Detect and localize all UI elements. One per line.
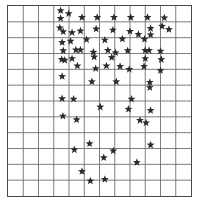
scatter-plot-figure — [0, 0, 199, 205]
grid-lines — [8, 6, 191, 196]
plot-area — [7, 5, 192, 197]
